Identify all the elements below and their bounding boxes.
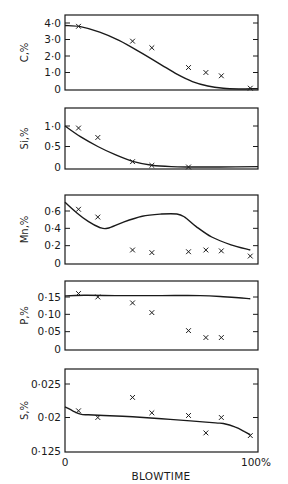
panel-mn: 00·20·40·6Mn,% <box>19 195 258 269</box>
measured-point-x-marker <box>149 45 154 50</box>
y-tick-label: 0 <box>54 161 61 173</box>
plot-frame <box>65 15 258 90</box>
measured-point-x-marker <box>186 328 191 333</box>
x-tick-start: 0 <box>62 456 69 468</box>
measured-point-x-marker <box>76 408 81 413</box>
panel-si: 00·51·0Si,% <box>19 108 258 173</box>
chart-svg: 01·02·03·04·0C,%00·51·0Si,%00·20·40·6Mn,… <box>0 0 288 484</box>
measured-point-x-marker <box>219 73 224 78</box>
y-tick-label: 0·15 <box>38 291 61 303</box>
y-tick-label: 0 <box>54 257 61 269</box>
measured-point-x-marker <box>149 310 154 315</box>
measured-point-x-marker <box>130 395 135 400</box>
measured-point-x-marker <box>219 415 224 420</box>
blowtime-composition-figure: 01·02·03·04·0C,%00·51·0Si,%00·20·40·6Mn,… <box>0 0 288 484</box>
measured-point-x-marker <box>76 207 81 212</box>
y-tick-label: 0·4 <box>44 222 61 234</box>
y-tick-label: 0·5 <box>44 140 61 152</box>
plot-frame <box>65 369 258 452</box>
y-tick-label: 0 <box>54 343 61 355</box>
measured-point-x-marker <box>149 250 154 255</box>
y-tick-label: 4·0 <box>44 17 61 29</box>
plot-frame <box>65 281 258 350</box>
measured-point-x-marker <box>95 135 100 140</box>
y-tick-label: 0·05 <box>38 325 61 337</box>
calculated-curve <box>65 407 250 435</box>
measured-point-x-marker <box>203 335 208 340</box>
y-axis-label: C,% <box>19 43 30 63</box>
y-tick-label: 0·025 <box>31 378 61 390</box>
measured-point-x-marker <box>130 39 135 44</box>
measured-point-x-marker <box>149 410 154 415</box>
measured-point-x-marker <box>219 335 224 340</box>
measured-point-x-marker <box>186 65 191 70</box>
y-axis-label: Mn,% <box>19 216 30 244</box>
measured-point-x-marker <box>186 413 191 418</box>
measured-point-x-marker <box>248 254 253 259</box>
plot-frame <box>65 108 258 169</box>
x-axis-label: BLOWTIME <box>132 470 191 482</box>
y-tick-label: 1·0 <box>44 120 61 132</box>
y-tick-label: 0 <box>54 83 61 95</box>
y-tick-label: 0·6 <box>44 205 61 217</box>
measured-point-x-marker <box>130 248 135 253</box>
measured-point-x-marker <box>248 433 253 438</box>
y-tick-label: 1·0 <box>44 66 61 78</box>
y-axis-label: Si,% <box>19 128 30 150</box>
y-axis-label: P,% <box>19 306 30 325</box>
y-tick-label: 0·02 <box>38 411 61 423</box>
measured-point-x-marker <box>203 70 208 75</box>
measured-point-x-marker <box>203 248 208 253</box>
x-tick-end: 100% <box>241 456 271 468</box>
panel-p: 00·050·100·15P,% <box>19 281 258 355</box>
measured-point-x-marker <box>130 300 135 305</box>
y-axis-label: S,% <box>19 401 30 420</box>
calculated-curve <box>65 202 250 250</box>
y-tick-label: 0·125 <box>31 445 61 457</box>
y-tick-label: 2·0 <box>44 50 61 62</box>
panel-s: 0·1250·020·025S,% <box>19 369 258 457</box>
y-tick-label: 3·0 <box>44 33 61 45</box>
measured-point-x-marker <box>186 249 191 254</box>
plot-frame <box>65 195 258 264</box>
calculated-curve <box>65 26 258 90</box>
measured-point-x-marker <box>203 431 208 436</box>
measured-point-x-marker <box>76 126 81 131</box>
measured-point-x-marker <box>95 215 100 220</box>
panels: 01·02·03·04·0C,%00·51·0Si,%00·20·40·6Mn,… <box>19 15 258 457</box>
measured-point-x-marker <box>219 248 224 253</box>
panel-c: 01·02·03·04·0C,% <box>19 15 258 95</box>
calculated-curve <box>65 295 250 298</box>
y-tick-label: 0·2 <box>44 239 61 251</box>
calculated-curve <box>65 126 258 167</box>
y-tick-label: 0·10 <box>38 308 61 320</box>
